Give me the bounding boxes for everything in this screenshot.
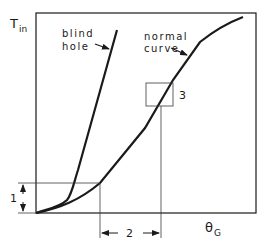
x-axis-label: θG [205, 220, 221, 238]
blind-hole-curve [36, 30, 117, 213]
y-axis-label: Tin [9, 16, 27, 34]
blind-hole-label-line2: hole [62, 41, 89, 52]
dim2-label: 2 [126, 227, 133, 240]
box-3-label: 3 [179, 89, 186, 102]
blind-hole-pointer-arrow [95, 44, 109, 49]
dim1-label: 1 [10, 192, 17, 205]
blind-hole-label-line1: blind [62, 28, 94, 39]
normal-curve-label-line2: curve [144, 43, 180, 54]
normal-curve-label-line1: normal [144, 31, 188, 42]
diagram-canvas: Tin θG blind hole normal curve 3 1 2 [0, 0, 265, 250]
